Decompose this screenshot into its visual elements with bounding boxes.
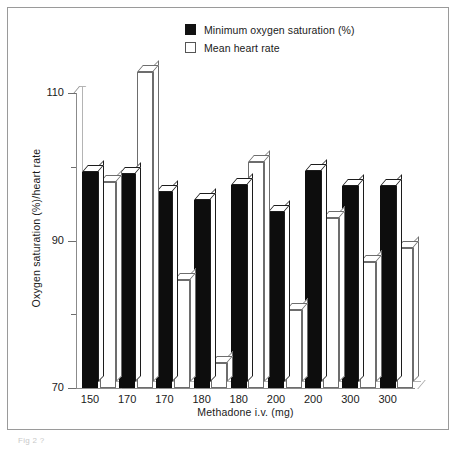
bar-side-face	[247, 173, 253, 382]
bar-front-face	[82, 172, 98, 388]
bar-side-face	[284, 200, 290, 382]
y-axis-tick-90	[68, 241, 76, 242]
bar-side-face	[376, 250, 382, 382]
x-axis-line	[76, 388, 415, 389]
bar-side-face	[153, 60, 159, 382]
bar-side-face	[135, 162, 141, 382]
y-axis-tick-label-90: 90	[24, 235, 64, 246]
y-axis-tick-70	[68, 388, 76, 389]
bar-front-face	[231, 185, 247, 388]
bar-side-face	[413, 236, 419, 382]
y-axis-title: Oxygen saturation (%)/heart rate	[30, 128, 42, 328]
y-axis-minor-tick-80	[71, 314, 76, 315]
x-axis-title: Methadone i.v. (mg)	[76, 406, 415, 418]
y-axis-line	[76, 93, 77, 388]
bar-oxygen-saturation-5	[268, 212, 284, 388]
chart-plot-area: Oxygen saturation (%)/heart rate 7090110…	[0, 0, 462, 452]
figure-caption: Fig 2 ?	[18, 436, 45, 445]
bar-side-face	[321, 159, 327, 382]
bar-side-face	[172, 180, 178, 382]
bar-side-face	[190, 268, 196, 382]
bar-front-face	[268, 212, 284, 388]
y-axis-minor-tick-100	[71, 167, 76, 168]
bar-side-face	[210, 188, 216, 382]
bar-side-face	[302, 298, 308, 382]
bar-oxygen-saturation-4	[231, 185, 247, 388]
x-axis-tick-label-8: 300	[366, 393, 410, 405]
bar-side-face	[116, 170, 122, 382]
bar-side-face	[396, 174, 402, 382]
y-axis-tick-label-70: 70	[24, 382, 64, 393]
bar-side-face	[98, 160, 104, 382]
bar-side-face	[264, 150, 270, 382]
bar-side-face	[358, 174, 364, 382]
y-axis-tick-110	[68, 93, 76, 94]
bar-oxygen-saturation-0	[82, 172, 98, 388]
bar-side-face	[339, 206, 345, 382]
y-axis-tick-label-110: 110	[24, 87, 64, 98]
